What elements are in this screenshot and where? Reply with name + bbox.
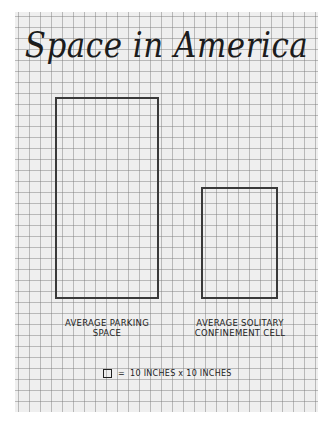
cell-label-line2: CONFINEMENT CELL [185,328,295,338]
parking-label-line1: AVERAGE PARKING [45,318,169,328]
parking-label-line2: SPACE [45,328,169,338]
legend-text: 10 INCHES x 10 INCHES [130,369,232,378]
cell-label-line1: AVERAGE SOLITARY [185,318,295,328]
diagram-title: Space in America [15,23,318,64]
legend-equals: = [118,369,125,378]
solitary-cell-label: AVERAGE SOLITARY CONFINEMENT CELL [185,318,295,338]
parking-space-rectangle [55,97,159,299]
graph-paper: Space in America AVERAGE PARKING SPACE A… [15,12,318,412]
solitary-cell-rectangle [201,187,278,299]
parking-space-label: AVERAGE PARKING SPACE [45,318,169,338]
scale-legend: = 10 INCHES x 10 INCHES [103,367,232,379]
grid-square-icon [103,369,112,378]
